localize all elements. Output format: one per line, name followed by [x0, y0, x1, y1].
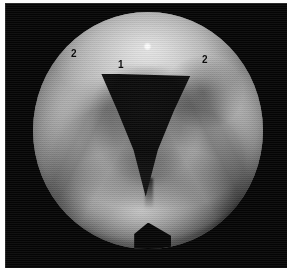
annotation-label-2-right: 2 — [202, 55, 208, 65]
photograph-plate — [5, 3, 287, 268]
aperture-fissure — [145, 178, 153, 209]
endoscope-field-of-view — [33, 12, 263, 249]
annotation-label-1: 1 — [118, 60, 124, 70]
endoscopic-figure: 2 1 2 — [0, 0, 289, 270]
specular-highlight-icon — [142, 42, 153, 52]
annotation-label-2-left: 2 — [71, 49, 77, 59]
